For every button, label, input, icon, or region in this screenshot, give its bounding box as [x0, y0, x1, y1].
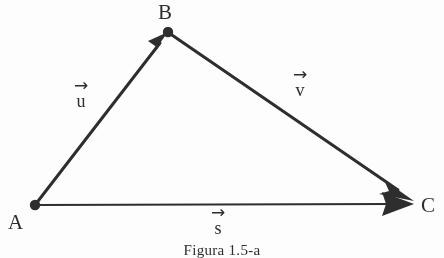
- vector-u-line: [35, 43, 160, 205]
- vertex-label-c: C: [421, 195, 435, 216]
- vector-triangle-figure: A B C → u → v → s Figura 1.5-a: [0, 0, 444, 258]
- vector-v-shape: [169, 33, 414, 201]
- vertex-label-a: A: [8, 212, 23, 233]
- figure-caption: Figura 1.5-a: [0, 242, 444, 258]
- vertex-label-b: B: [158, 2, 172, 23]
- vector-name-u: u: [64, 92, 98, 110]
- vector-label-v: → v: [283, 70, 317, 99]
- vertex-dot-a: [30, 200, 40, 210]
- vector-label-u: → u: [64, 81, 98, 110]
- vector-u-shape: [35, 32, 168, 205]
- vector-name-v: v: [283, 81, 317, 99]
- vector-v-line: [169, 33, 398, 190]
- vertex-dot-b: [163, 27, 173, 37]
- vector-name-s: s: [201, 219, 235, 237]
- vector-label-s: → s: [201, 208, 235, 237]
